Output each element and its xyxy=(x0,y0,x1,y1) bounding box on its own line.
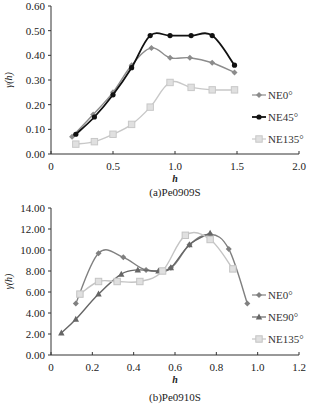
y-tick-label: 6.00 xyxy=(26,286,46,298)
y-tick-label: 0.10 xyxy=(26,123,46,135)
y-tick-label: 8.00 xyxy=(26,265,46,277)
chart-caption: (b)Pe0910S xyxy=(149,391,201,404)
legend-label: NE135° xyxy=(268,333,304,345)
chart-caption: (a)Pe0909S xyxy=(149,186,200,199)
x-tick-label: 0 xyxy=(48,160,54,172)
y-tick-label: 14.00 xyxy=(20,202,45,214)
series-ne135 xyxy=(77,232,236,297)
y-tick-label: 0.40 xyxy=(26,49,46,61)
legend-item: NE45° xyxy=(252,111,298,123)
legend-item: NE0° xyxy=(252,289,293,301)
y-tick-label: 0.30 xyxy=(26,74,46,86)
y-tick-label: 0.60 xyxy=(26,0,46,12)
y-tick-label: 12.00 xyxy=(20,223,45,235)
x-tick-label: 2.0 xyxy=(292,160,306,172)
x-tick-label: 0.2 xyxy=(85,361,99,373)
legend-item: NE135° xyxy=(252,333,304,345)
legend-label: NE90° xyxy=(268,311,298,323)
y-axis-label: γ(h) xyxy=(3,72,15,88)
chart-b: 0.002.004.006.008.0010.0012.0014.0000.20… xyxy=(3,202,306,404)
y-tick-label: 10.00 xyxy=(20,244,45,256)
y-axis-label: γ(h) xyxy=(3,273,15,289)
legend-label: NE0° xyxy=(268,89,293,101)
x-axis-label: h xyxy=(172,173,178,184)
y-tick-label: 0.20 xyxy=(26,99,46,111)
y-tick-label: 4.00 xyxy=(26,307,46,319)
x-axis-label: h xyxy=(172,374,178,385)
legend-item: NE0° xyxy=(252,89,293,101)
y-tick-label: 0.50 xyxy=(26,25,46,37)
x-tick-label: 0.4 xyxy=(127,361,141,373)
x-tick-label: 1.0 xyxy=(168,160,182,172)
legend-label: NE45° xyxy=(268,111,298,123)
chart-a: 0.000.100.200.300.400.500.6000.51.01.52.… xyxy=(3,0,306,199)
y-tick-label: 0.00 xyxy=(26,349,46,361)
legend-label: NE135° xyxy=(268,133,304,145)
x-tick-label: 1.0 xyxy=(251,361,265,373)
variogram-figure: 0.000.100.200.300.400.500.6000.51.01.52.… xyxy=(0,0,314,405)
y-tick-label: 0.00 xyxy=(26,148,46,160)
legend-item: NE135° xyxy=(252,133,304,145)
legend-item: NE90° xyxy=(252,311,298,323)
x-tick-label: 0.5 xyxy=(106,160,120,172)
x-tick-label: 0 xyxy=(48,361,54,373)
x-tick-label: 0.6 xyxy=(168,361,182,373)
x-tick-label: 1.2 xyxy=(292,361,306,373)
x-tick-label: 0.8 xyxy=(209,361,223,373)
y-tick-label: 2.00 xyxy=(26,328,46,340)
legend-label: NE0° xyxy=(268,289,293,301)
x-tick-label: 1.5 xyxy=(230,160,244,172)
